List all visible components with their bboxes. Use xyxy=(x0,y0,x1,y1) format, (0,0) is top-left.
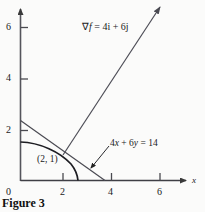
y-tick-label-2: 2 xyxy=(6,125,11,135)
y-tick-label-4: 4 xyxy=(6,73,11,83)
x-tick-label-6: 6 xyxy=(157,187,162,197)
eq-equals-14: = 14 xyxy=(138,138,158,148)
figure-3-container: 6 4 2 0 2 4 6 x ∇f = 4i + 6j 4x + 6y = 1… xyxy=(0,0,205,212)
x-tick-label-4: 4 xyxy=(108,187,113,197)
nabla-icon: ∇ xyxy=(82,21,89,32)
gradient-j-hat: j xyxy=(126,21,129,32)
figure-caption: Figure 3 xyxy=(2,196,45,211)
tangency-point-label: (2, 1) xyxy=(37,155,58,165)
gradient-vector-label: ∇f = 4i + 6j xyxy=(82,22,129,32)
x-tick-label-2: 2 xyxy=(60,187,65,197)
gradient-plus: + 6 xyxy=(110,21,126,32)
eq-plus-six: + 6 xyxy=(119,138,134,148)
gradient-eq: = 4 xyxy=(92,21,108,32)
constraint-label-leader xyxy=(91,146,109,168)
constraint-line xyxy=(21,121,106,181)
y-tick-label-6: 6 xyxy=(6,22,11,32)
x-axis-label: x xyxy=(192,176,196,185)
constraint-equation-label: 4x + 6y = 14 xyxy=(110,139,158,149)
